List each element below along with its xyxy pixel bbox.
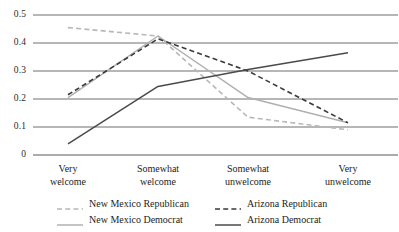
x-axis-tick-label-line: unwelcome: [198, 176, 298, 189]
series-line-3: [68, 53, 348, 144]
x-axis-tick-label-line: Very: [298, 163, 398, 176]
x-axis-tick-label-line: Somewhat: [108, 163, 208, 176]
y-axis-tick-label: 0.2: [0, 93, 26, 103]
x-axis-tick-label-line: Somewhat: [198, 163, 298, 176]
x-axis-tick-label-line: welcome: [18, 176, 118, 189]
y-axis-tick-label: 0: [0, 149, 26, 159]
x-axis-tick-label-line: unwelcome: [298, 176, 398, 189]
legend-item[interactable]: Arizona Republican: [215, 199, 327, 209]
legend-label: Arizona Democrat: [247, 215, 321, 225]
x-axis-tick-label: Veryunwelcome: [298, 163, 398, 188]
chart-legend: New Mexico RepublicanNew Mexico Democrat…: [0, 195, 399, 232]
y-axis-tick-label: 0.3: [0, 65, 26, 75]
x-axis-tick-label: Somewhatwelcome: [108, 163, 208, 188]
legend-label: Arizona Republican: [247, 199, 327, 209]
y-axis-tick-label: 0.5: [0, 9, 26, 19]
x-axis-tick-label-line: welcome: [108, 176, 208, 189]
legend-item[interactable]: Arizona Democrat: [215, 215, 321, 225]
legend-label: New Mexico Democrat: [89, 215, 183, 225]
legend-label: New Mexico Republican: [89, 199, 189, 209]
x-axis-tick-label: Somewhatunwelcome: [198, 163, 298, 188]
y-axis-tick-label: 0.4: [0, 37, 26, 47]
legend-item[interactable]: New Mexico Democrat: [57, 215, 183, 225]
legend-item[interactable]: New Mexico Republican: [57, 199, 189, 209]
y-axis-tick-label: 0.1: [0, 121, 26, 131]
x-axis-tick-label: Verywelcome: [18, 163, 118, 188]
series-line-1: [68, 36, 348, 123]
line-chart: 00.10.20.30.40.5 VerywelcomeSomewhatwelc…: [0, 0, 399, 232]
x-axis-tick-label-line: Very: [18, 163, 118, 176]
